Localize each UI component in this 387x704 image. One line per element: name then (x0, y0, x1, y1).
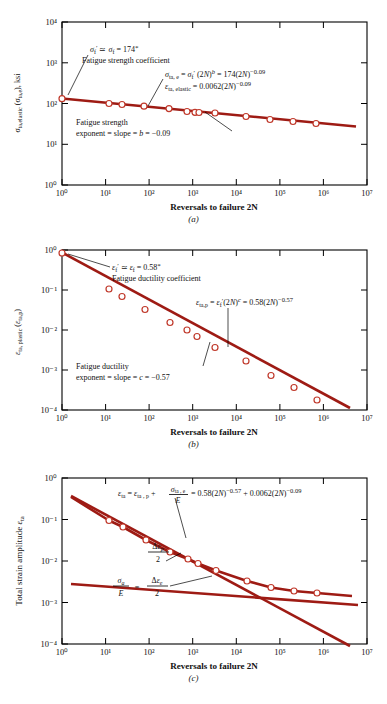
panel-a: 10⁰ 10¹ 10² 10³ 10⁴ 10⁵ 10⁶ 10⁷ 10⁰ 10¹ … (0, 0, 387, 232)
xtick-label: 10¹ (100, 647, 112, 657)
strain-life-figure: 10⁰ 10¹ 10² 10³ 10⁴ 10⁵ 10⁶ 10⁷ 10⁰ 10¹ … (0, 0, 387, 704)
panel-b-yaxis-title: εta, plastic (εta,p) (13, 309, 23, 355)
panel-a-xaxis-title: Reversals to failure 2N (170, 202, 258, 212)
ytick-label: 10⁴ (46, 17, 58, 27)
svg-text:σta , e: σta , e (171, 485, 186, 494)
xtick-label: 10⁷ (361, 413, 373, 423)
ytick-label: 10⁻⁴ (41, 405, 58, 415)
xtick-label: 10⁷ (361, 647, 373, 657)
ytick-label: 10³ (46, 58, 58, 68)
xtick-label: 10⁶ (318, 413, 330, 423)
panel-c-xticks (62, 478, 367, 644)
ytick-label: 10⁰ (45, 245, 58, 255)
svg-text:E: E (118, 589, 124, 598)
panel-b-fit-line (62, 253, 350, 409)
xtick-label: 10⁰ (56, 188, 69, 198)
panel-b-ytick-labels: 10⁻⁴ 10⁻³ 10⁻² 10⁻¹ 10⁰ (41, 245, 58, 415)
ytick-label: 10⁻² (41, 325, 58, 335)
xtick-label: 10⁰ (56, 647, 69, 657)
panel-a-equation-line2: εta, elastic = 0.0062(2N)−0.09 (165, 80, 251, 92)
panel-b-exponent-line1: Fatigue ductility (76, 362, 129, 371)
panel-c-xtick-labels: 10⁰ 10¹ 10² 10³ 10⁴ 10⁵ 10⁶ 10⁷ (56, 647, 373, 657)
panel-c-plastic-denominator: 2 (156, 555, 160, 564)
ytick-label: 10⁰ (45, 473, 58, 483)
panel-c-main-equation-rhs: = 0.58(2N)−0.57 + 0.0062(2N)−0.09 (191, 487, 302, 498)
svg-text:σa: σa (118, 576, 125, 586)
panel-b-caption: (b) (0, 439, 387, 449)
panel-b-xticks (62, 250, 367, 410)
panel-a-exponent-line1: Fatigue strength (76, 118, 128, 127)
panel-c-elastic-denominator: 2 (155, 589, 159, 598)
xtick-label: 10⁵ (274, 413, 286, 423)
xtick-label: 10¹ (100, 188, 112, 198)
xtick-label: 10⁵ (274, 188, 286, 198)
svg-text:Δεp: Δεp (152, 542, 163, 552)
panel-b-coefficient-label: Fatigue ductility coefficient (112, 274, 201, 283)
xtick-label: 10⁷ (361, 188, 373, 198)
ytick-label: 10⁻³ (41, 598, 58, 608)
ytick-label: 10¹ (46, 139, 58, 149)
panel-b-coefficient-value: εf′ ≃ εf = 0.58* (112, 262, 161, 273)
ytick-label: 10⁻⁴ (41, 639, 58, 649)
xtick-label: 10² (144, 188, 156, 198)
xtick-label: 10³ (187, 413, 199, 423)
xtick-label: 10⁵ (274, 647, 286, 657)
panel-c-fraction-sigma-E: σta , e E (169, 485, 188, 505)
panel-a-yaxis-title: σta,elastic (σta,e), ksi (13, 73, 23, 133)
panel-c-plastic-line (71, 496, 350, 646)
xtick-label: 10⁴ (231, 413, 243, 423)
ytick-label: 10² (46, 99, 58, 109)
xtick-label: 10⁶ (318, 647, 330, 657)
xtick-label: 10⁰ (56, 413, 69, 423)
xtick-label: 10⁴ (231, 188, 243, 198)
ytick-label: 10⁻³ (41, 365, 58, 375)
panel-a-equation-line1: σta, e = σf′ (2N)b = 174(2N)−0.09 (165, 68, 265, 80)
panel-c-main-equation: εta = εta , p + (118, 489, 156, 499)
panel-c: 10⁰ 10¹ 10² 10³ 10⁴ 10⁵ 10⁶ 10⁷ 10⁻⁴ 10⁻… (0, 460, 387, 704)
panel-b-equation: εta,p = εf′(2N)c = 0.58(2N)−0.57 (196, 296, 294, 308)
xtick-label: 10² (144, 413, 156, 423)
panel-c-ytick-labels: 10⁻⁴ 10⁻³ 10⁻² 10⁻¹ 10⁰ (41, 473, 58, 649)
panel-a-ytick-labels: 10⁰ 10¹ 10² 10³ 10⁴ (45, 17, 58, 190)
panel-c-yaxis-title: Total strain amplitude εta (14, 516, 25, 605)
ytick-label: 10⁰ (45, 180, 58, 190)
panel-a-coefficient-value: σf′ ≃ σf = 174* (90, 44, 139, 55)
ytick-label: 10⁻¹ (41, 515, 58, 525)
panel-c-caption: (c) (0, 673, 387, 683)
panel-c-frame (62, 478, 367, 644)
svg-text:E: E (175, 496, 181, 505)
panel-c-xaxis-title: Reversals to failure 2N (170, 661, 258, 671)
xtick-label: 10⁶ (318, 188, 330, 198)
panel-c-total-curve (71, 497, 352, 596)
panel-c-leaders (166, 498, 212, 586)
panel-a-plot: 10⁰ 10¹ 10² 10³ 10⁴ 10⁵ 10⁶ 10⁷ 10⁰ 10¹ … (0, 0, 387, 232)
panel-b-frame (62, 250, 367, 410)
panel-b: 10⁰ 10¹ 10² 10³ 10⁴ 10⁵ 10⁶ 10⁷ 10⁻⁴ 10⁻… (0, 232, 387, 460)
xtick-label: 10¹ (100, 413, 112, 423)
panel-c-yticks (62, 478, 367, 644)
svg-text:Δεe: Δεe (152, 576, 163, 586)
panel-a-coefficient-label: Fatigue strength coefficient (82, 56, 171, 65)
panel-c-plot: 10⁰ 10¹ 10² 10³ 10⁴ 10⁵ 10⁶ 10⁷ 10⁻⁴ 10⁻… (0, 460, 387, 704)
panel-b-plot: 10⁰ 10¹ 10² 10³ 10⁴ 10⁵ 10⁶ 10⁷ 10⁻⁴ 10⁻… (0, 232, 387, 460)
panel-b-exponent-line2: exponent = slope = c = −0.57 (76, 373, 170, 382)
panel-a-caption: (a) (0, 214, 387, 224)
ytick-label: 10⁻² (41, 556, 58, 566)
xtick-label: 10² (144, 647, 156, 657)
panel-b-xtick-labels: 10⁰ 10¹ 10² 10³ 10⁴ 10⁵ 10⁶ 10⁷ (56, 413, 373, 423)
xtick-label: 10⁴ (231, 647, 243, 657)
panel-a-exponent-line2: exponent = slope = b = −0.09 (76, 129, 170, 138)
panel-b-xaxis-title: Reversals to failure 2N (170, 427, 258, 437)
ytick-label: 10⁻¹ (41, 285, 58, 295)
xtick-label: 10³ (187, 188, 199, 198)
xtick-label: 10³ (187, 647, 199, 657)
panel-b-yticks (62, 250, 367, 410)
panel-c-elastic-equals: = (135, 583, 140, 592)
panel-a-xtick-labels: 10⁰ 10¹ 10² 10³ 10⁴ 10⁵ 10⁶ 10⁷ (56, 188, 373, 198)
